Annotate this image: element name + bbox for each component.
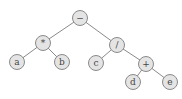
node-label: e — [167, 77, 172, 87]
node-label: * — [41, 38, 46, 48]
node-mul: * — [36, 36, 51, 51]
tree-nodes: −*/abc+de — [10, 11, 178, 90]
expression-tree: −*/abc+de — [0, 0, 182, 99]
node-plus: + — [139, 57, 154, 72]
node-label: b — [59, 57, 65, 67]
node-label: a — [14, 57, 20, 67]
node-d: d — [126, 75, 141, 90]
node-e: e — [163, 75, 178, 90]
node-a: a — [10, 55, 25, 70]
node-label: c — [93, 58, 98, 68]
node-div: / — [110, 38, 125, 53]
node-label: − — [76, 13, 84, 23]
node-c: c — [89, 56, 104, 71]
node-label: d — [130, 77, 136, 87]
node-b: b — [55, 55, 70, 70]
node-root: − — [73, 11, 88, 26]
node-label: + — [142, 59, 150, 69]
